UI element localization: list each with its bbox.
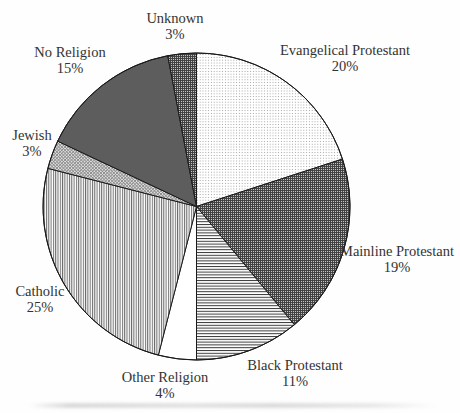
slice-label-evangelical-protestant: Evangelical Protestant 20% xyxy=(280,43,410,74)
slice-label-no-religion: No Religion 15% xyxy=(34,45,105,76)
slice-label-name: Black Protestant xyxy=(247,358,342,374)
slice-label-name: Other Religion xyxy=(122,370,209,386)
slice-label-percent: 15% xyxy=(34,61,105,77)
slice-label-percent: 11% xyxy=(247,374,342,390)
slice-label-name: Jewish xyxy=(12,128,51,144)
slice-label-name: Evangelical Protestant xyxy=(280,43,410,59)
slice-label-name: Unknown xyxy=(146,11,203,27)
slice-label-percent: 3% xyxy=(12,144,51,160)
slice-label-percent: 20% xyxy=(280,59,410,75)
pie-slices-group xyxy=(43,53,350,360)
slice-label-black-protestant: Black Protestant 11% xyxy=(247,358,342,389)
slice-label-mainline-protestant: Mainline Protestant 19% xyxy=(340,244,454,275)
slice-label-name: Catholic xyxy=(15,284,64,300)
slice-label-unknown: Unknown 3% xyxy=(146,11,203,42)
slice-label-percent: 19% xyxy=(340,260,454,276)
slice-label-other-religion: Other Religion 4% xyxy=(122,370,209,401)
slice-label-name: Mainline Protestant xyxy=(340,244,454,260)
scan-artifact-band xyxy=(28,403,436,408)
slice-label-percent: 4% xyxy=(122,386,209,402)
slice-label-percent: 25% xyxy=(15,300,64,316)
slice-label-catholic: Catholic 25% xyxy=(15,284,64,315)
slice-label-name: No Religion xyxy=(34,45,105,61)
slice-label-jewish: Jewish 3% xyxy=(12,128,51,159)
slice-label-percent: 3% xyxy=(146,27,203,43)
pie-chart-figure: Unknown 3% Evangelical Protestant 20% Ma… xyxy=(0,0,460,413)
